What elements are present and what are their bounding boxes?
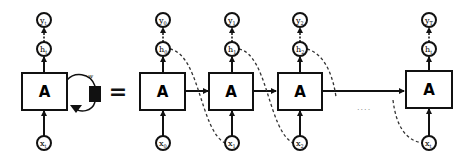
rnn-cell-2: y2 h2 A x2 [278,13,322,150]
svg-text:A: A [423,81,435,99]
rnn-diagram: yt ht A xt w = .... [0,0,473,163]
folded-rnn: yt ht A xt w [22,13,101,150]
rnn-cell-1: y1 h1 A x1 [209,13,253,150]
equals-sign: = [109,79,127,104]
output-node-folded: yt [37,13,51,27]
ellipsis: .... [357,103,371,112]
recurrent-loop: w [67,72,101,113]
svg-text:A: A [157,83,169,101]
weight-square-icon [89,86,101,102]
svg-text:A: A [39,83,51,101]
input-node-folded: xt [37,136,51,150]
svg-text:A: A [294,83,306,101]
svg-text:A: A [225,83,237,101]
weight-label: w [88,72,94,79]
loop-arrow-icon [70,105,82,113]
rnn-cell-t: yT ht A xt [406,13,452,150]
rnn-cell-folded: A [22,73,67,110]
rnn-cell-0: y0 h0 A x0 [140,13,185,150]
hidden-node-folded: ht [37,42,51,56]
